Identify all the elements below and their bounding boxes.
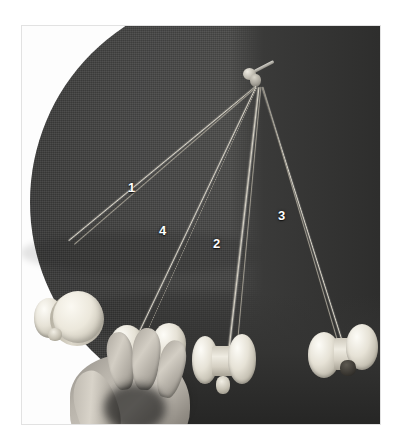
bob-1-knot (48, 328, 62, 341)
photo-frame: 1 4 2 3 (21, 25, 381, 425)
label-pendulum-2: 2 (213, 237, 220, 250)
hand (66, 326, 226, 424)
hand-grip-shadow (104, 384, 166, 424)
label-pendulum-3: 3 (278, 209, 285, 222)
photo-canvas: 1 4 2 3 (22, 26, 380, 424)
bob-pendulum-3 (302, 318, 380, 394)
label-pendulum-1: 1 (128, 181, 135, 194)
bob-2-right-flange (228, 334, 256, 384)
label-pendulum-4: 4 (159, 224, 166, 237)
photo-root: 1 4 2 3 (0, 0, 402, 444)
bob-3-knot (340, 360, 356, 376)
